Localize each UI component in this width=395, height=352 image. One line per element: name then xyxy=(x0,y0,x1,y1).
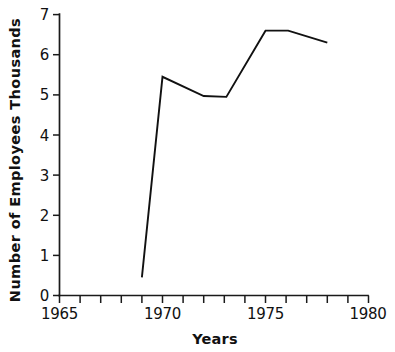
y-tick-label: 4 xyxy=(40,127,49,145)
x-axis-ticks xyxy=(60,296,369,304)
y-axis-title: Number of Employees Thousands xyxy=(7,18,23,302)
y-tick-label: 6 xyxy=(40,46,49,64)
x-tick-label: 1965 xyxy=(41,305,78,323)
y-axis-ticks xyxy=(53,15,60,296)
y-axis-tick-labels: 0 1 2 3 4 5 6 7 xyxy=(40,6,49,305)
y-tick-label: 3 xyxy=(40,167,49,185)
x-tick-label: 1980 xyxy=(350,305,387,323)
y-tick-label: 5 xyxy=(40,86,49,104)
chart-plot-area: 0 1 2 3 4 5 6 7 xyxy=(0,0,395,352)
x-tick-label: 1970 xyxy=(144,305,181,323)
employees-line-chart: 0 1 2 3 4 5 6 7 xyxy=(0,0,395,352)
data-series-line xyxy=(142,31,327,278)
y-tick-label: 1 xyxy=(40,247,49,265)
x-axis-title: Years xyxy=(191,331,238,347)
y-tick-label: 0 xyxy=(40,287,49,305)
y-tick-label: 2 xyxy=(40,207,49,225)
x-tick-label: 1975 xyxy=(247,305,284,323)
x-axis-tick-labels: 1965 1970 1975 1980 xyxy=(41,305,386,323)
y-tick-label: 7 xyxy=(40,6,49,24)
